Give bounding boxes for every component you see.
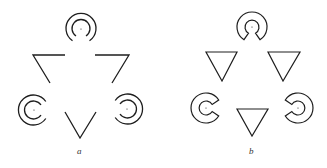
left-triangle — [206, 52, 237, 81]
right-arc-inducer — [115, 94, 142, 124]
bottom-triangle — [237, 109, 268, 136]
right-triangle — [268, 52, 300, 81]
lower-v-lines — [65, 112, 96, 138]
panel-b-label: b — [249, 146, 254, 156]
panel-b: b — [191, 12, 313, 156]
top-pacman-inducer — [237, 12, 267, 40]
left-pacman-inducer — [191, 93, 219, 123]
left-arc-inducer — [18, 95, 45, 125]
panel-a: a — [18, 13, 142, 156]
right-pacman-inducer — [285, 93, 313, 123]
top-arc-inducer — [66, 13, 96, 40]
panel-a-label: a — [77, 146, 82, 156]
upper-right-corner-lines — [95, 55, 129, 83]
upper-left-corner-lines — [33, 55, 65, 83]
figure-canvas: a b — [0, 0, 327, 168]
